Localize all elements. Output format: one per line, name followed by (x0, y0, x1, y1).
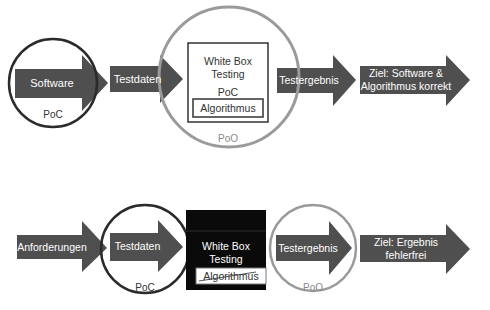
ziel-line2-top: Algorithmus korrekt (358, 80, 454, 93)
testdaten-poc-label: PoC (125, 281, 165, 294)
whitebox-title-line2-top: Testing (188, 68, 268, 81)
testergebnis-label-top: Testergebnis (278, 74, 340, 87)
whitebox-title-line2-bottom: Testing (186, 253, 266, 266)
testdaten-label-bottom: Testdaten (110, 240, 165, 253)
whitebox-poc-label: PoC (188, 86, 268, 99)
poo-label-top: PoO (208, 132, 248, 145)
testdaten-label-top: Testdaten (110, 73, 165, 86)
ziel-line1-top: Ziel: Software & (358, 67, 454, 80)
algorithmus-label-top: Algorithmus (193, 102, 263, 115)
whitebox-title-line1-top: White Box (188, 55, 268, 68)
software-label: Software (17, 77, 87, 90)
algorithmus-label-bottom: Algorithmus (196, 270, 266, 283)
testergebnis-label-bottom: Testergebnis (277, 242, 339, 255)
whitebox-title-line1-bottom: White Box (186, 240, 266, 253)
ziel-line1-bottom: Ziel: Ergebnis (358, 236, 454, 249)
anforderungen-label: Anforderungen (17, 241, 87, 254)
software-poc-label: PoC (33, 108, 73, 121)
testergebnis-poo-label: PoO (293, 281, 333, 294)
ziel-line2-bottom: fehlerfrei (358, 249, 454, 262)
